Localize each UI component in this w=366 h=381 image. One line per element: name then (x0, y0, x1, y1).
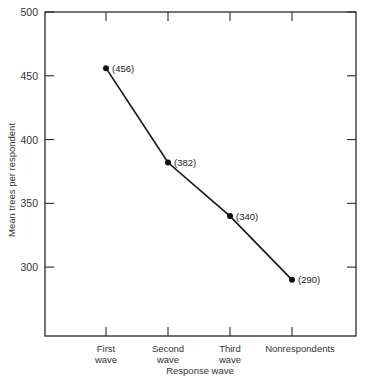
x-axis-title: Response wave (166, 365, 234, 376)
series-line (106, 68, 292, 280)
data-point-label: (456) (112, 63, 134, 74)
data-series: (456)(382)(340)(290) (103, 63, 320, 286)
data-point-label: (290) (298, 274, 320, 285)
data-point-marker (227, 213, 233, 219)
data-point-marker (103, 65, 109, 71)
y-axis-ticks: 300350400450500 (20, 6, 356, 273)
data-point-label: (382) (174, 157, 196, 168)
line-chart: 300350400450500 FirstwaveSecondwaveThird… (0, 0, 366, 381)
x-category-label: Third (219, 343, 241, 354)
x-category-label: Second (152, 343, 184, 354)
y-axis-title: Mean trees per respondent (6, 123, 17, 237)
y-tick-label: 400 (20, 134, 38, 146)
plot-border (45, 12, 356, 336)
plot-frame (45, 12, 356, 336)
x-category-label: Nonrespondents (265, 343, 335, 354)
x-category-label: First (97, 343, 116, 354)
data-point-marker (289, 277, 295, 283)
data-point-label: (340) (236, 211, 258, 222)
data-point-marker (165, 160, 171, 166)
x-category-label: wave (218, 354, 241, 365)
x-category-label: wave (94, 354, 117, 365)
y-tick-label: 300 (20, 261, 38, 273)
x-category-label: wave (156, 354, 179, 365)
y-tick-label: 350 (20, 197, 38, 209)
y-tick-label: 500 (20, 6, 38, 18)
y-tick-label: 450 (20, 70, 38, 82)
